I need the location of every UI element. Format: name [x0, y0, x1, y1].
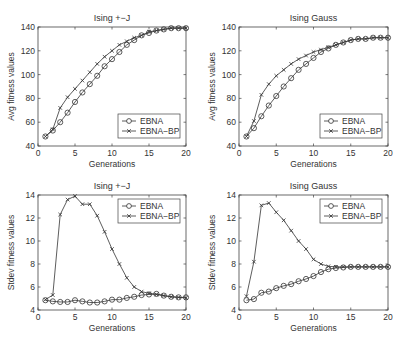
- figure-canvas: Ising +−J05101520406080100120140Generati…: [0, 0, 405, 343]
- legend-circle-icon: [329, 204, 334, 209]
- chart-panel-3: Ising +−J05101520468101214GenerationsStd…: [6, 181, 191, 333]
- x-marker-icon: [282, 219, 286, 223]
- y-tick-label: 4: [231, 305, 236, 315]
- legend-label: EBNA−BP: [140, 211, 180, 221]
- x-marker-icon: [245, 135, 249, 139]
- y-axis-label: Avg fitness values: [6, 52, 16, 120]
- y-tick-label: 12: [227, 213, 237, 223]
- chart-panel-2: Ising Gauss05101520406080100120140Genera…: [207, 13, 393, 169]
- y-tick-label: 40: [227, 141, 237, 151]
- x-marker-icon: [274, 74, 278, 78]
- y-tick-label: 14: [227, 190, 237, 200]
- chart-title: Ising +−J: [94, 13, 131, 23]
- x-tick-label: 20: [383, 148, 393, 158]
- y-axis-label: Stdev fitness values: [6, 215, 16, 291]
- legend-circle-icon: [127, 119, 132, 124]
- x-axis-label: Generations: [290, 159, 336, 169]
- y-tick-label: 10: [227, 236, 237, 246]
- x-tick-label: 0: [36, 148, 41, 158]
- y-axis-label: Avg fitness values: [207, 52, 217, 120]
- x-tick-label: 5: [274, 148, 279, 158]
- y-tick-label: 120: [21, 46, 35, 56]
- x-axis-label: Generations: [89, 159, 135, 169]
- x-axis-label: Generations: [290, 323, 336, 333]
- legend-circle-icon: [127, 204, 132, 209]
- x-marker-icon: [297, 239, 301, 243]
- x-marker-icon: [297, 57, 301, 61]
- y-tick-label: 4: [30, 305, 35, 315]
- legend: EBNAEBNA−BP: [118, 114, 180, 138]
- x-marker-icon: [304, 54, 308, 58]
- x-tick-label: 15: [346, 312, 356, 322]
- legend-label: EBNA−BP: [342, 211, 382, 221]
- x-marker-icon: [132, 285, 136, 289]
- y-tick-label: 80: [26, 93, 36, 103]
- y-tick-label: 8: [231, 259, 236, 269]
- x-tick-label: 5: [73, 312, 78, 322]
- x-marker-icon: [110, 247, 114, 251]
- y-tick-label: 8: [30, 259, 35, 269]
- legend-circle-icon: [329, 119, 334, 124]
- x-tick-label: 10: [309, 148, 319, 158]
- y-tick-label: 140: [21, 22, 35, 32]
- x-marker-icon: [118, 262, 122, 266]
- x-tick-label: 5: [73, 148, 78, 158]
- x-tick-label: 10: [309, 312, 319, 322]
- figure-grid: Ising +−J05101520406080100120140Generati…: [0, 0, 405, 343]
- y-tick-label: 100: [222, 70, 236, 80]
- y-tick-label: 14: [26, 190, 36, 200]
- chart-panel-1: Ising +−J05101520406080100120140Generati…: [6, 13, 191, 169]
- legend: EBNAEBNA−BP: [118, 199, 180, 223]
- legend-label: EBNA: [140, 116, 163, 126]
- x-marker-icon: [81, 79, 85, 83]
- x-marker-icon: [44, 135, 48, 139]
- x-tick-label: 5: [274, 312, 279, 322]
- x-axis-label: Generations: [89, 323, 135, 333]
- x-marker-icon: [289, 62, 293, 66]
- x-marker-icon: [125, 276, 129, 280]
- x-marker-icon: [274, 210, 278, 214]
- y-tick-label: 80: [227, 93, 237, 103]
- x-tick-label: 10: [107, 148, 117, 158]
- x-tick-label: 10: [107, 312, 117, 322]
- x-marker-icon: [282, 68, 286, 72]
- x-marker-icon: [103, 55, 107, 59]
- x-tick-label: 15: [346, 148, 356, 158]
- x-tick-label: 20: [181, 312, 191, 322]
- y-tick-label: 60: [227, 117, 237, 127]
- x-marker-icon: [312, 258, 316, 262]
- legend-label: EBNA−BP: [140, 126, 180, 136]
- x-marker-icon: [267, 82, 271, 86]
- chart-panel-4: Ising Gauss05101520468101214GenerationsS…: [207, 181, 393, 333]
- x-tick-label: 15: [144, 148, 154, 158]
- x-marker-icon: [73, 87, 77, 91]
- x-marker-icon: [44, 298, 48, 302]
- x-marker-icon: [289, 229, 293, 233]
- legend: EBNAEBNA−BP: [320, 114, 382, 138]
- x-tick-label: 20: [181, 148, 191, 158]
- legend: EBNAEBNA−BP: [320, 199, 382, 223]
- y-tick-label: 6: [231, 282, 236, 292]
- series-line-ebna: [246, 267, 388, 300]
- x-marker-icon: [110, 49, 114, 53]
- y-tick-label: 10: [26, 236, 36, 246]
- x-marker-icon: [118, 43, 122, 47]
- x-marker-icon: [66, 95, 70, 99]
- y-tick-label: 40: [26, 141, 36, 151]
- y-tick-label: 140: [222, 22, 236, 32]
- legend-label: EBNA: [342, 201, 365, 211]
- x-tick-label: 0: [237, 148, 242, 158]
- x-marker-icon: [95, 214, 99, 218]
- y-tick-label: 6: [30, 282, 35, 292]
- x-marker-icon: [103, 230, 107, 234]
- x-tick-label: 20: [383, 312, 393, 322]
- y-tick-label: 100: [21, 70, 35, 80]
- legend-label: EBNA: [140, 201, 163, 211]
- y-tick-label: 120: [222, 46, 236, 56]
- x-tick-label: 15: [144, 312, 154, 322]
- chart-title: Ising Gauss: [290, 13, 338, 23]
- x-marker-icon: [66, 198, 70, 202]
- x-marker-icon: [58, 106, 62, 110]
- chart-title: Ising Gauss: [290, 181, 338, 191]
- chart-title: Ising +−J: [94, 181, 131, 191]
